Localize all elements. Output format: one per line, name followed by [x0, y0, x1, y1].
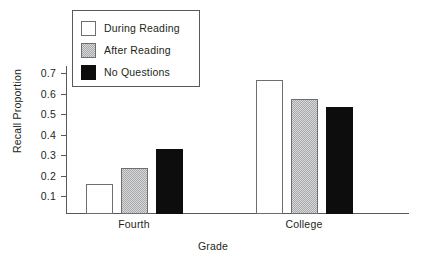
black-square-icon [81, 65, 96, 80]
x-axis-line [66, 213, 409, 214]
bar-college-after-reading [291, 99, 318, 215]
y-tick-label-wrap-0.1: 0.1 [22, 190, 56, 202]
y-tick-label-wrap-0.5: 0.5 [22, 108, 56, 120]
legend-label-during-reading: During Reading [104, 22, 180, 34]
bar-fourth-during-reading [86, 184, 113, 214]
x-group-label-college: College [264, 218, 344, 230]
legend: During Reading After Reading No Question… [72, 10, 200, 87]
x-axis-title: Grade [0, 240, 426, 252]
y-tick-label-0.1: 0.1 [41, 190, 56, 202]
x-group-label-fourth: Fourth [94, 218, 174, 230]
bar-fourth-after-reading [121, 168, 148, 214]
y-tick-label-wrap-0.2: 0.2 [22, 170, 56, 182]
y-tick-label-wrap-0.6: 0.6 [22, 88, 56, 100]
y-tick-label-0.4: 0.4 [41, 129, 56, 141]
y-tick-0.4 [61, 135, 66, 136]
white-square-icon [81, 21, 96, 36]
y-tick-0.7 [61, 73, 66, 74]
y-tick-0.5 [61, 114, 66, 115]
y-axis-line [66, 66, 67, 214]
bar-fourth-no-questions [156, 149, 183, 214]
legend-item-after-reading: After Reading [81, 39, 199, 61]
y-tick-label-0.5: 0.5 [41, 108, 56, 120]
y-tick-label-wrap-0.3: 0.3 [22, 149, 56, 161]
y-tick-label-0.3: 0.3 [41, 149, 56, 161]
y-tick-label-0.2: 0.2 [41, 170, 56, 182]
gray-square-icon [81, 43, 96, 58]
legend-item-no-questions: No Questions [81, 61, 199, 83]
y-tick-0.3 [61, 155, 66, 156]
bar-college-no-questions [326, 107, 353, 215]
legend-label-after-reading: After Reading [104, 44, 171, 56]
y-tick-0.1 [61, 196, 66, 197]
y-tick-0.6 [61, 94, 66, 95]
y-tick-label-wrap-0.4: 0.4 [22, 129, 56, 141]
y-tick-label-wrap-0.7: 0.7 [22, 67, 56, 79]
y-tick-label-0.6: 0.6 [41, 88, 56, 100]
bar-college-during-reading [256, 80, 283, 214]
legend-label-no-questions: No Questions [104, 66, 170, 78]
y-axis-title: Recall Proportion [11, 56, 23, 166]
y-tick-label-0.7: 0.7 [41, 67, 56, 79]
legend-item-during-reading: During Reading [81, 17, 199, 39]
bar-chart: 0.7 0.6 0.5 0.4 0.3 0.2 0.1 Recall Propo… [0, 0, 426, 265]
y-tick-0.2 [61, 176, 66, 177]
